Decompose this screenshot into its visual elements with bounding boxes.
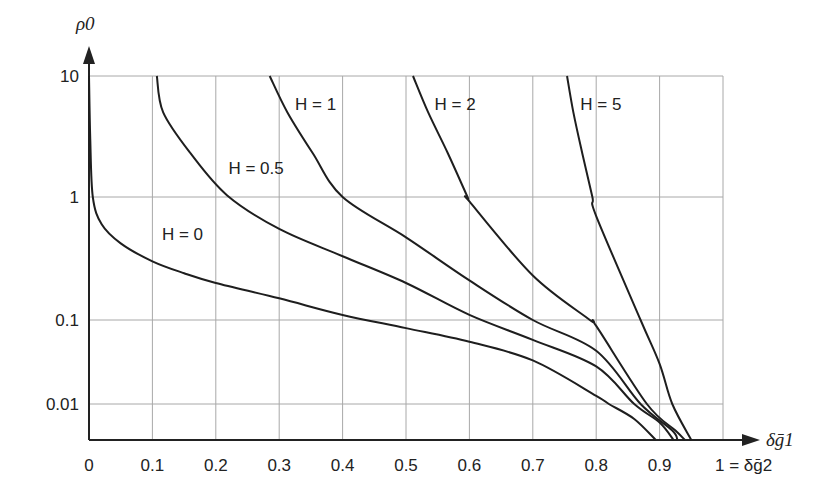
x-tick-label: 0.9	[648, 456, 672, 475]
x-tick-label: 0.7	[521, 456, 545, 475]
x-tick-label: 0.2	[204, 456, 228, 475]
curve-h2	[413, 76, 685, 440]
axes	[83, 46, 760, 446]
y-tick-label: 1	[70, 188, 79, 207]
x-tick-label: 0.8	[584, 456, 608, 475]
x-axis-arrow-icon	[742, 434, 760, 446]
curve-label: H = 0	[162, 225, 203, 244]
chart-canvas: 00.10.20.30.40.50.60.70.80.91010.10.01 H…	[0, 0, 840, 498]
x-tick-label: 0.5	[394, 456, 418, 475]
x-axis-title: δḡ1	[766, 429, 794, 450]
y-tick-label: 0.01	[46, 395, 79, 414]
x-tick-label: 0.6	[458, 456, 482, 475]
y-tick-label: 10	[60, 67, 79, 86]
y-tick-label: 0.1	[55, 311, 79, 330]
curve-label: H = 5	[580, 95, 621, 114]
x-tick-label: 0.4	[331, 456, 355, 475]
curve-label: H = 2	[435, 95, 476, 114]
curves	[89, 76, 691, 440]
y-axis-title: ρ0	[75, 13, 95, 34]
curve-label: H = 1	[295, 95, 336, 114]
gridlines	[89, 76, 723, 440]
curve-h5	[567, 76, 691, 440]
x-axis-end-label: 1 = δḡ2	[715, 456, 772, 475]
curve-label: H = 0.5	[228, 159, 283, 178]
x-tick-label: 0	[84, 456, 93, 475]
x-tick-label: 0.3	[267, 456, 291, 475]
curve-labels: H = 0H = 0.5H = 1H = 2H = 5	[162, 95, 622, 243]
y-axis-arrow-icon	[83, 46, 95, 64]
x-tick-label: 0.1	[141, 456, 165, 475]
